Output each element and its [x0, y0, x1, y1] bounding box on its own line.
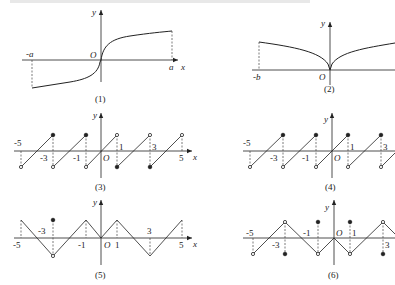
tick-neg3: -3 — [40, 153, 48, 163]
origin-label: O — [103, 153, 110, 163]
tick-neg1: -1 — [73, 153, 81, 163]
curve-left — [259, 42, 330, 70]
origin-label: O — [319, 72, 326, 82]
panel-1: y x O -a a (1) — [22, 7, 185, 104]
origin-label: O — [336, 228, 343, 238]
origin-label: O — [90, 50, 97, 60]
tick-neg1: -1 — [303, 228, 311, 238]
caption-3: (3) — [95, 182, 106, 192]
caption-5: (5) — [95, 270, 106, 280]
caption-6: (6) — [328, 270, 339, 280]
y-label: y — [320, 18, 325, 28]
curve-right — [330, 43, 395, 70]
caption-1: (1) — [95, 94, 106, 104]
caption-4: (4) — [325, 182, 336, 192]
tick-neg1: -1 — [302, 153, 310, 163]
tick-3: 3 — [147, 226, 152, 236]
tick-neg5: -5 — [13, 240, 21, 250]
tick-neg5: -5 — [14, 138, 22, 148]
y-label: y — [91, 7, 96, 17]
tick-neg5: -5 — [246, 228, 254, 238]
y-label: y — [324, 202, 329, 212]
x-label: x — [180, 62, 185, 72]
tick-neg-b: -b — [253, 72, 261, 82]
tick-neg5: -5 — [243, 138, 251, 148]
figure-canvas: y x O -a a (1) y O -b (2) — [0, 0, 395, 285]
tick-a: a — [169, 62, 174, 72]
panel-6: y O -5 -3 -1 1 3 (6) — [243, 200, 395, 280]
origin-label: O — [334, 153, 341, 163]
x-label: x — [192, 239, 197, 249]
origin-label: O — [104, 240, 111, 250]
panel-5: y x O -5 -3 -1 1 3 5 (5) — [13, 197, 197, 280]
curve — [32, 31, 172, 88]
tick-neg1: -1 — [78, 240, 86, 250]
y-label: y — [323, 114, 328, 124]
tick-neg3: -3 — [270, 153, 278, 163]
tick-1: 1 — [119, 142, 124, 152]
tick-1: 1 — [350, 142, 355, 152]
tick-1: 1 — [352, 228, 357, 238]
tick-3: 3 — [152, 142, 157, 152]
panel-4: y O -5 -3 -1 1 3 (4) — [243, 113, 395, 192]
panel-2: y O -b (2) — [252, 18, 395, 94]
tick-3: 3 — [383, 142, 388, 152]
tick-1: 1 — [115, 240, 120, 250]
x-label: x — [192, 152, 197, 162]
tick-neg3: -3 — [272, 240, 280, 250]
tick-neg-a: -a — [26, 49, 34, 59]
tick-neg3: -3 — [38, 226, 46, 236]
tick-3: 3 — [385, 240, 390, 250]
y-label: y — [92, 197, 97, 207]
caption-2: (2) — [324, 84, 335, 94]
panel-3: y x O -5 -3 -1 1 3 5 (3) — [14, 110, 197, 192]
y-label: y — [92, 110, 97, 120]
tick-5: 5 — [179, 153, 184, 163]
tick-5: 5 — [179, 240, 184, 250]
